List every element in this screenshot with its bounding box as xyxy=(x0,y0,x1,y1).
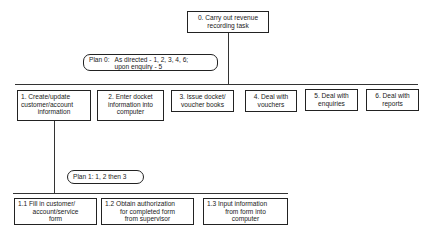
plan-0-box: Plan 0: As directed - 1, 2, 3, 4, 6; upo… xyxy=(83,54,218,71)
task-box-5: 5. Deal with enquiries xyxy=(305,89,358,111)
task-0-label-line2: recording task xyxy=(191,22,265,30)
plan-0-prefix: Plan 0: xyxy=(89,56,110,69)
task-4-line1: 4. Deal with xyxy=(249,93,293,101)
connector-level2-horizontal xyxy=(13,193,288,194)
task-box-3: 3. Issue docket/ voucher books xyxy=(171,90,234,112)
task-1-line3: information xyxy=(21,108,87,116)
task-6-line1: 6. Deal with xyxy=(370,92,415,100)
task-1-1-line3: form xyxy=(18,215,93,223)
task-2-line3: computer xyxy=(101,108,160,116)
task-1-2-line2: for completed form xyxy=(105,208,190,216)
task-0-label: 0. Carry out revenue xyxy=(191,14,265,22)
task-1-1-line2: account/service xyxy=(18,208,93,216)
task-box-2: 2. Enter docket information into compute… xyxy=(97,90,164,121)
task-5-line1: 5. Deal with xyxy=(309,92,354,100)
task-1-line2: customer/account xyxy=(21,101,87,109)
task-6-line2: reports xyxy=(370,100,415,108)
task-box-1-1: 1.1 Fill in customer/ account/service fo… xyxy=(14,198,97,225)
plan-1-label: Plan 1: 1, 2 then 3 xyxy=(73,173,127,180)
task-4-line2: vouchers xyxy=(249,101,293,109)
task-1-3-line1: 1.3 Input information xyxy=(207,200,284,208)
task-2-line1: 2. Enter docket xyxy=(101,93,160,101)
task-box-1: 1. Create/update customer/account inform… xyxy=(17,90,91,121)
task-1-1-line1: 1.1 Fill in customer/ xyxy=(18,200,93,208)
task-box-4: 4. Deal with vouchers xyxy=(245,90,297,112)
task-box-6: 6. Deal with reports xyxy=(366,89,419,111)
connector-level1-horizontal xyxy=(15,84,418,85)
task-3-line1: 3. Issue docket/ xyxy=(175,93,230,101)
task-1-3-line3: computer xyxy=(207,215,284,223)
task-box-1-3: 1.3 Input information from form into com… xyxy=(203,198,288,225)
plan-0-line1: As directed - 1, 2, 3, 4, 6; xyxy=(115,56,189,63)
task-1-2-line1: 1.2 Obtain authorization xyxy=(105,200,190,208)
task-1-3-line2: from form into xyxy=(207,208,284,216)
connector-root-vertical xyxy=(228,33,229,85)
task-1-line1: 1. Create/update xyxy=(21,93,87,101)
task-2-line2: information into xyxy=(101,101,160,109)
task-box-0: 0. Carry out revenue recording task xyxy=(187,11,269,33)
task-5-line2: enquiries xyxy=(309,100,354,108)
task-3-line2: voucher books xyxy=(175,101,230,109)
plan-1-box: Plan 1: 1, 2 then 3 xyxy=(67,170,144,184)
connector-task1-vertical xyxy=(54,121,55,194)
task-box-1-2: 1.2 Obtain authorization for completed f… xyxy=(101,198,194,225)
plan-0-line2: upon enquiry - 5 xyxy=(115,63,189,70)
task-1-2-line3: from supervisor xyxy=(105,215,190,223)
